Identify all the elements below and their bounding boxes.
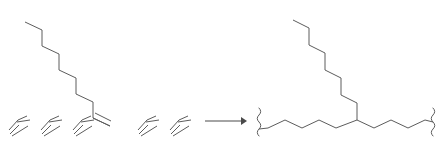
reactant-small-alkene-2 [41,116,62,136]
small-alkene-2-tail [49,120,62,122]
reactant-small-alkene-3 [73,116,94,136]
reaction-arrow [205,117,247,125]
small-alkene-1-tail [17,120,30,122]
left-polymer-continuation-icon [257,108,261,136]
reactant-small-alkene-1 [9,116,30,136]
small-alkene-2-double-inner-2 [44,126,60,136]
reaction-arrow-head [241,117,247,125]
long-alkene-backbone [25,22,110,126]
small-alkene-5-double-inner-2 [173,126,189,136]
reactant-long-alkene [25,22,111,126]
reactant-small-alkene-5 [170,116,191,136]
reactant-small-alkene-4 [138,116,159,136]
small-alkene-4-tail [146,120,159,122]
reaction-scheme-diagram [0,0,441,141]
small-alkene-3-tail [81,120,94,122]
scheme-canvas [0,0,441,141]
small-alkene-4-double-inner-2 [141,126,157,136]
small-alkene-1-double-inner-2 [12,126,28,136]
small-alkene-5-tail [178,120,191,122]
product-polymer [257,20,435,136]
product-backbone [268,120,425,128]
product-side-branch [293,20,357,120]
small-alkene-3-double-inner-2 [76,126,92,136]
